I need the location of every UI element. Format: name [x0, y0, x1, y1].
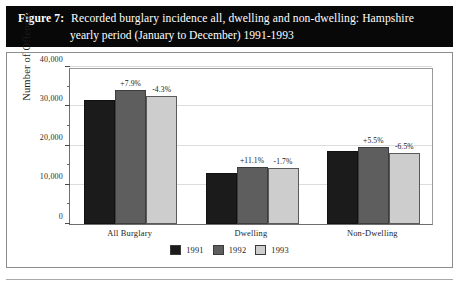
- gridline: [70, 66, 432, 67]
- bar-percent-label: -6.5%: [395, 142, 414, 151]
- bar-non-dwelling-1993[interactable]: [389, 153, 420, 224]
- bar-slot: [84, 69, 115, 224]
- bar-slot: -4.3%: [146, 69, 177, 224]
- y-axis-tick-label: 40,000: [40, 54, 63, 63]
- x-axis-category-label: Non-Dwelling: [347, 229, 398, 238]
- y-axis-minor-tick: [67, 203, 70, 204]
- bar-all-burglary-1992[interactable]: [115, 90, 146, 224]
- y-axis-tick-label: 10,000: [40, 172, 63, 181]
- y-axis-tick: [65, 105, 70, 106]
- legend-swatch-icon: [170, 245, 181, 255]
- chart-frame: Number of Offences 010,00020,00030,00040…: [6, 52, 453, 268]
- bar-percent-label: +5.5%: [363, 136, 384, 145]
- y-axis-tick-label: 30,000: [40, 93, 63, 102]
- plot-area: 010,00020,00030,00040,000+7.9%-4.3%+11.1…: [69, 68, 433, 225]
- y-axis-title: Number of Offences: [21, 0, 32, 121]
- bar-non-dwelling-1992[interactable]: [358, 147, 389, 224]
- bar-percent-label: +7.9%: [120, 79, 141, 88]
- y-axis-minor-tick: [67, 164, 70, 165]
- bottom-divider: [6, 279, 453, 280]
- legend-swatch-icon: [255, 245, 266, 255]
- bar-percent-label: -4.3%: [152, 85, 171, 94]
- bar-dwelling-1993[interactable]: [268, 168, 299, 224]
- bar-all-burglary-1991[interactable]: [84, 100, 115, 224]
- bar-all-burglary-1993[interactable]: [146, 96, 177, 224]
- bar-percent-label: +11.1%: [240, 156, 264, 165]
- bar-slot: +7.9%: [115, 69, 146, 224]
- bar-slot: -1.7%: [268, 69, 299, 224]
- bar-dwelling-1992[interactable]: [237, 167, 268, 224]
- x-axis-category-label: Dwelling: [235, 229, 268, 238]
- figure-container: Figure 7:Recorded burglary incidence all…: [0, 0, 460, 285]
- bar-slot: +5.5%: [358, 69, 389, 224]
- y-axis-minor-tick: [67, 125, 70, 126]
- bar-dwelling-1991[interactable]: [206, 173, 237, 224]
- y-axis-tick-label: 20,000: [40, 133, 63, 142]
- chart-legend: 199119921993: [7, 245, 452, 255]
- bar-percent-label: -1.7%: [274, 157, 293, 166]
- bar-slot: [206, 69, 237, 224]
- y-axis-tick: [65, 66, 70, 67]
- figure-title-line-1: Figure 7:Recorded burglary incidence all…: [18, 10, 443, 27]
- bar-slot: [327, 69, 358, 224]
- figure-title-text-1: Recorded burglary incidence all, dwellin…: [71, 12, 414, 25]
- bar-group: +5.5%-6.5%: [327, 69, 420, 224]
- legend-swatch-icon: [213, 245, 224, 255]
- x-axis-category-label: All Burglary: [107, 229, 152, 238]
- legend-label: 1993: [271, 246, 289, 255]
- y-axis-tick: [65, 184, 70, 185]
- legend-item-1991[interactable]: 1991: [170, 245, 204, 255]
- bar-group: +11.1%-1.7%: [206, 69, 299, 224]
- legend-label: 1992: [229, 246, 247, 255]
- y-axis-tick-label: 0: [59, 211, 63, 220]
- bar-non-dwelling-1991[interactable]: [327, 151, 358, 224]
- y-axis-minor-tick: [67, 86, 70, 87]
- figure-title-line-2: yearly period (January to December) 1991…: [18, 27, 443, 44]
- y-axis-tick: [65, 223, 70, 224]
- y-axis-tick: [65, 145, 70, 146]
- bar-slot: -6.5%: [389, 69, 420, 224]
- bar-group: +7.9%-4.3%: [84, 69, 177, 224]
- bar-slot: +11.1%: [237, 69, 268, 224]
- legend-item-1993[interactable]: 1993: [255, 245, 289, 255]
- figure-title-banner: Figure 7:Recorded burglary incidence all…: [6, 6, 453, 47]
- legend-label: 1991: [186, 246, 204, 255]
- legend-item-1992[interactable]: 1992: [213, 245, 247, 255]
